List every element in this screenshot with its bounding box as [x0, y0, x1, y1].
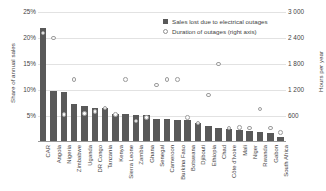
x-tick-label: South Africa: [283, 145, 289, 177]
duration-marker: [278, 130, 283, 135]
duration-marker: [51, 36, 56, 41]
bar: [164, 119, 171, 142]
bar: [153, 119, 160, 142]
bar-slot: [152, 12, 162, 142]
bar: [184, 120, 191, 142]
circle-marker-swatch-icon: [163, 29, 168, 34]
y-tick-label-left: 25%: [14, 8, 36, 15]
duration-marker: [62, 112, 67, 117]
bar-slot: [276, 12, 286, 142]
x-axis-baseline: [38, 141, 286, 142]
y-tick-label-left: 15%: [14, 60, 36, 67]
legend-item-duration: Duration of outages (right axis): [163, 26, 268, 36]
category-slot: Zimbabwe: [69, 144, 79, 191]
category-slot: Ghana: [141, 144, 151, 191]
bar: [71, 104, 78, 142]
category-slot: Uganda: [79, 144, 89, 191]
category-slot: Botswana: [183, 144, 193, 191]
duration-marker: [165, 77, 170, 82]
y-axis-ticks-left: 25%20%15%10%5%: [14, 0, 36, 191]
category-slot: Tanzania: [100, 144, 110, 191]
category-slot: Mali: [234, 144, 244, 191]
chart-legend: Sales lost due to electrical outages Dur…: [163, 16, 268, 36]
bar: [40, 28, 47, 142]
category-slot: Kenya: [110, 144, 120, 191]
duration-marker: [175, 77, 180, 82]
category-slot: Sierra Leone: [121, 144, 131, 191]
duration-marker: [206, 93, 211, 98]
bar: [102, 108, 109, 142]
category-slot: Angola: [48, 144, 58, 191]
bar: [50, 91, 57, 142]
category-slot: Burkina Faso: [172, 144, 182, 191]
duration-marker: [216, 62, 221, 67]
y-tick-label-right: 1 200: [288, 86, 304, 93]
bar-swatch-icon: [163, 19, 168, 24]
legend-label-sales-lost: Sales lost due to electrical outages: [172, 18, 268, 25]
bar-slot: [69, 12, 79, 142]
category-slot: Nigeria: [59, 144, 69, 191]
y-tick-label-left: 5%: [14, 112, 36, 119]
y-tick-label-right: 1 800: [288, 60, 304, 67]
category-slot: Ethiopia: [203, 144, 213, 191]
y-tick-label-left: 10%: [14, 86, 36, 93]
duration-marker: [258, 107, 263, 112]
category-slot: Zambia: [131, 144, 141, 191]
bar: [205, 126, 212, 142]
legend-item-sales-lost: Sales lost due to electrical outages: [163, 16, 268, 26]
bar-slot: [59, 12, 69, 142]
category-slot: Djibouti: [193, 144, 203, 191]
duration-marker: [93, 109, 98, 114]
duration-marker: [247, 126, 252, 131]
bar-slot: [48, 12, 58, 142]
bar-slot: [90, 12, 100, 142]
bar-slot: [38, 12, 48, 142]
category-slot: Niger: [245, 144, 255, 191]
y-tick-label-left: 20%: [14, 34, 36, 41]
duration-marker: [113, 112, 118, 117]
bar-slot: [110, 12, 120, 142]
duration-marker: [268, 126, 273, 131]
category-slot: Gabon: [265, 144, 275, 191]
duration-marker: [123, 77, 128, 82]
category-slot: Senegal: [152, 144, 162, 191]
chart-container: Share of annual sales Hours per year 25%…: [0, 0, 326, 191]
bar-slot: [100, 12, 110, 142]
category-slot: Rwanda: [255, 144, 265, 191]
duration-marker: [72, 77, 77, 82]
y-tick-label-right: 3 000: [288, 8, 304, 15]
duration-marker: [154, 83, 159, 88]
y-axis-ticks-right: 3 0002 4001 8001 200600: [288, 0, 316, 191]
y-tick-label-right: 2 400: [288, 34, 304, 41]
duration-marker: [82, 111, 87, 116]
category-slot: Chad: [214, 144, 224, 191]
bar: [122, 114, 129, 142]
y-axis-label-right: Hours per year: [317, 51, 324, 92]
duration-marker: [144, 115, 149, 120]
bar: [215, 128, 222, 142]
bar-slot: [131, 12, 141, 142]
category-slot: South Africa: [276, 144, 286, 191]
category-slot: CAR: [38, 144, 48, 191]
legend-label-duration: Duration of outages (right axis): [172, 28, 257, 35]
bar: [61, 92, 68, 142]
bar: [195, 123, 202, 142]
category-slot: Côte d'Ivoire: [224, 144, 234, 191]
bar-slot: [121, 12, 131, 142]
bar-slot: [141, 12, 151, 142]
bar: [174, 120, 181, 142]
x-axis-category-labels: CARAngolaNigeriaZimbabweUgandaDR CongoTa…: [38, 144, 286, 191]
category-slot: Cameroon: [162, 144, 172, 191]
category-slot: DR Congo: [90, 144, 100, 191]
bar-slot: [79, 12, 89, 142]
bar: [112, 114, 119, 142]
y-tick-label-right: 600: [288, 112, 299, 119]
duration-marker: [237, 125, 242, 130]
